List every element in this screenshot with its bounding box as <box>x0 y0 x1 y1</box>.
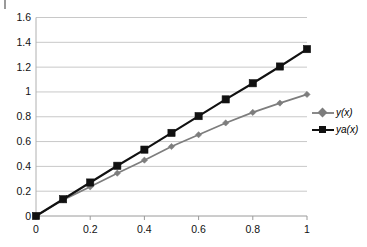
series-line-yx <box>36 94 307 216</box>
x-tick-label-1: 1 <box>287 223 327 235</box>
x-axis-ticks <box>36 216 307 220</box>
x-tick-label-0.2: 0.2 <box>70 223 110 235</box>
data-point-yx-5 <box>168 143 174 149</box>
gridlines <box>36 18 307 192</box>
data-series <box>32 46 310 220</box>
data-point-yax-9 <box>276 63 283 70</box>
data-point-yx-4 <box>141 157 147 163</box>
chart-legend: y(x) ya(x) <box>312 104 367 138</box>
legend-item-y[interactable]: y(x) <box>312 104 367 121</box>
y-tick-label-1.4: 1.4 <box>16 36 31 48</box>
y-tick-label-1.6: 1.6 <box>16 11 31 23</box>
data-point-yax-10 <box>303 46 310 53</box>
y-tick-label-0.2: 0.2 <box>16 185 31 197</box>
x-tick-label-0.8: 0.8 <box>233 223 273 235</box>
data-point-yax-2 <box>87 179 94 186</box>
y-tick-label-0.4: 0.4 <box>16 160 31 172</box>
data-point-yax-5 <box>168 129 175 136</box>
data-point-yx-9 <box>277 100 283 106</box>
x-tick-label-0.6: 0.6 <box>179 223 219 235</box>
data-point-yx-7 <box>223 120 229 126</box>
data-point-yax-3 <box>114 162 121 169</box>
legend-key-ya <box>312 124 334 136</box>
diamond-marker-icon <box>318 108 328 118</box>
data-point-yax-6 <box>195 113 202 120</box>
data-point-yax-8 <box>249 80 256 87</box>
legend-key-y <box>312 107 334 119</box>
y-tick-label-1.2: 1.2 <box>16 61 31 73</box>
data-point-yax-0 <box>32 212 39 219</box>
y-tick-label-0.6: 0.6 <box>16 135 31 147</box>
square-marker-icon <box>319 126 326 133</box>
data-point-yx-6 <box>196 132 202 138</box>
data-point-yax-4 <box>141 146 148 153</box>
x-tick-label-0: 0 <box>16 223 56 235</box>
chart-container: 00.20.40.60.811.21.41.6 00.20.40.60.81 y… <box>0 0 367 247</box>
y-tick-label-0.8: 0.8 <box>16 110 31 122</box>
legend-label-ya: ya(x) <box>334 125 358 135</box>
y-tick-label-1: 1 <box>25 85 31 97</box>
data-point-yx-3 <box>114 170 120 176</box>
data-point-yx-8 <box>250 109 256 115</box>
x-tick-label-0.4: 0.4 <box>124 223 164 235</box>
data-point-yax-1 <box>60 196 67 203</box>
data-point-yax-7 <box>222 96 229 103</box>
legend-label-y: y(x) <box>334 108 353 118</box>
legend-item-ya[interactable]: ya(x) <box>312 121 367 138</box>
y-tick-label-0: 0 <box>25 210 31 222</box>
